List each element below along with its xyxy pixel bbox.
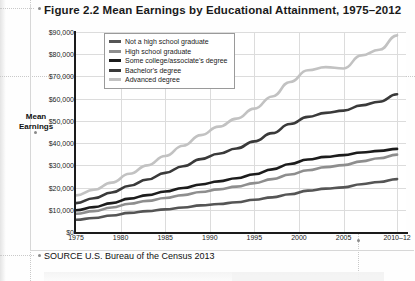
x-axis-tick-label: 2010–12 xyxy=(383,234,410,241)
y-axis-tick-label: $80,000 xyxy=(49,51,74,58)
legend-color-swatch xyxy=(109,50,121,53)
legend-item-label: High school graduate xyxy=(125,47,191,57)
page-edge-shading xyxy=(0,0,6,281)
x-axis-tick-label: 2000 xyxy=(291,234,307,241)
y-axis-tick-label: $20,000 xyxy=(49,184,74,191)
chart-legend: Not a high school graduateHigh school gr… xyxy=(104,33,235,89)
legend-item-label: Advanced degree xyxy=(125,75,180,85)
guide-dot-source xyxy=(38,254,41,257)
x-axis-tick-label: 1975 xyxy=(68,234,84,241)
legend-item: Advanced degree xyxy=(109,75,228,85)
legend-color-swatch xyxy=(109,78,121,81)
y-axis-tick-label: $90,000 xyxy=(49,29,74,36)
x-axis-tick-label: 1990 xyxy=(202,234,218,241)
legend-item-label: Some college/associate's degree xyxy=(125,56,228,66)
y-axis-tick-label: $50,000 xyxy=(49,117,74,124)
x-axis-tick-labels: 19751980198519901995200020052010–12 xyxy=(76,234,406,248)
legend-item: Bachelor's degree xyxy=(109,66,228,76)
figure-title: Figure 2.2 Mean Earnings by Educational … xyxy=(44,4,401,16)
y-axis-tick-label: $30,000 xyxy=(49,162,74,169)
x-axis-tick-label: 1995 xyxy=(247,234,263,241)
x-axis-tick-label: 1985 xyxy=(157,234,173,241)
layout-guide-horizontal-bottom xyxy=(0,255,34,256)
series-line xyxy=(76,155,397,214)
y-axis-tick-label: $40,000 xyxy=(49,140,74,147)
legend-color-swatch xyxy=(109,59,121,62)
y-axis-tick-labels: $0$10,000$20,000$30,000$40,000$50,000$60… xyxy=(28,32,74,232)
legend-item-label: Bachelor's degree xyxy=(125,66,181,76)
x-axis-tick-label: 1980 xyxy=(113,234,129,241)
legend-item: Some college/associate's degree xyxy=(109,56,228,66)
layout-guide-horizontal-top xyxy=(0,8,34,9)
y-axis-line xyxy=(74,31,76,233)
figure-page: Figure 2.2 Mean Earnings by Educational … xyxy=(0,0,415,281)
page-bottom-strip-secondary xyxy=(232,272,384,281)
legend-color-swatch xyxy=(109,69,121,72)
legend-item: High school graduate xyxy=(109,47,228,57)
y-axis-tick-label: $70,000 xyxy=(49,73,74,80)
figure-source: SOURCE U.S. Bureau of the Census 2013 xyxy=(44,251,215,261)
y-axis-tick-label: $60,000 xyxy=(49,95,74,102)
y-axis-tick-label: $10,000 xyxy=(49,206,74,213)
x-axis-tick-label: 2005 xyxy=(336,234,352,241)
legend-item-label: Not a high school graduate xyxy=(125,37,209,47)
legend-color-swatch xyxy=(109,40,121,43)
legend-item: Not a high school graduate xyxy=(109,37,228,47)
